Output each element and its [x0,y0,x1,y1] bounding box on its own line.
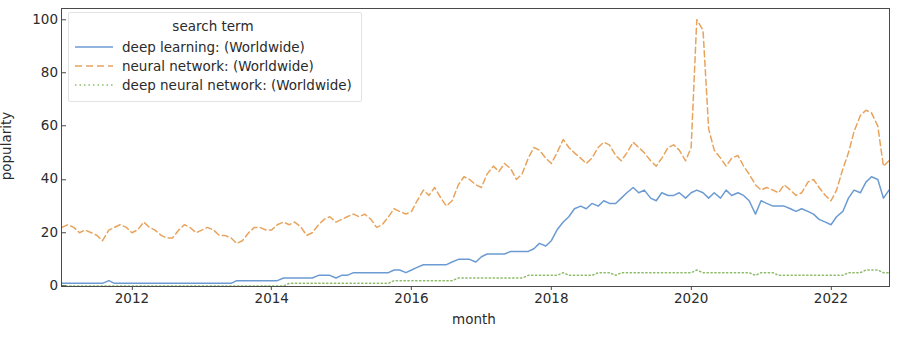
y-axis-tick-mark [62,126,66,127]
x-axis-tick: 2014 [255,286,289,306]
series-line [62,177,889,284]
legend-item-label: deep learning: (Worldwide) [122,41,305,55]
y-axis-tick-label: 0 [49,279,62,293]
legend-item-deep-neural-network[interactable]: deep neural network: (Worldwide) [74,76,352,95]
y-axis-tick-label: 80 [41,66,62,80]
x-axis-tick-label: 2022 [814,292,848,306]
y-axis-tick-mark [62,179,66,180]
x-axis-tick: 2012 [115,286,149,306]
y-axis-tick-label: 60 [41,119,62,133]
x-axis-tick-label: 2014 [255,292,289,306]
y-axis-tick-mark [62,72,66,73]
legend-line-swatch-solid [74,41,114,53]
y-axis-tick-label: 100 [32,13,62,27]
y-axis-label: popularity [0,112,14,181]
y-axis-tick: 0 [49,279,62,293]
legend-item-neural-network[interactable]: neural network: (Worldwide) [74,57,352,76]
x-axis-tick-label: 2012 [115,292,149,306]
y-axis-tick: 20 [41,226,62,240]
y-axis-tick: 80 [41,66,62,80]
y-axis-tick: 100 [32,13,62,27]
y-axis-tick: 60 [41,119,62,133]
x-axis-tick: 2020 [674,286,708,306]
legend-item-label: neural network: (Worldwide) [122,60,314,74]
legend: search term deep learning: (Worldwide) n… [68,12,362,102]
chart-figure: popularity month 02040608010020122014201… [0,0,924,339]
x-axis-tick: 2018 [534,286,568,306]
legend-line-swatch-dashed [74,60,114,72]
x-axis-tick-label: 2016 [394,292,428,306]
legend-title: search term [74,18,352,35]
y-axis-tick-label: 40 [41,173,62,187]
y-axis-tick-mark [62,232,66,233]
x-axis-tick: 2016 [394,286,428,306]
legend-item-deep-learning[interactable]: deep learning: (Worldwide) [74,38,352,57]
legend-item-label: deep neural network: (Worldwide) [122,79,352,93]
x-axis-label: month [452,311,496,327]
x-axis-tick-label: 2020 [674,292,708,306]
x-axis-tick-label: 2018 [534,292,568,306]
y-axis-tick-mark [62,285,66,286]
legend-line-swatch-dotted [74,79,114,91]
x-axis-tick: 2022 [814,286,848,306]
y-axis-tick-label: 20 [41,226,62,240]
y-axis-tick: 40 [41,173,62,187]
y-axis-tick-mark [62,19,66,20]
